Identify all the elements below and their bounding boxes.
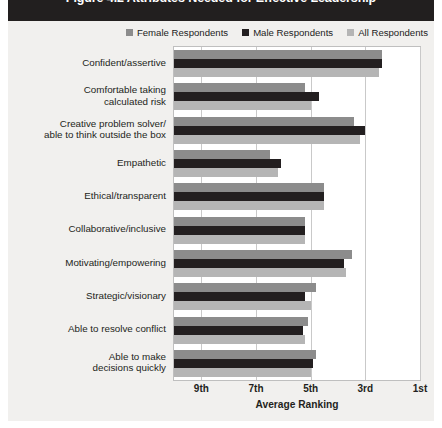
legend-item-label: Male Respondents — [253, 27, 333, 38]
category-label: Motivating/empowering — [8, 257, 166, 269]
gridline — [420, 47, 421, 380]
x-axis-ticks: 9th7th5th3rd1st — [173, 383, 421, 397]
category-label-line: Motivating/empowering — [8, 257, 166, 269]
x-axis-tick-label: 7th — [249, 383, 264, 394]
bar-group — [174, 183, 420, 210]
bar — [174, 135, 360, 144]
bar — [174, 326, 303, 335]
legend-swatch-icon — [242, 29, 249, 36]
bar — [174, 101, 311, 110]
bar-group — [174, 83, 420, 110]
bar — [174, 292, 305, 301]
category-label: Comfortable takingcalculated risk — [8, 84, 166, 107]
bar — [174, 268, 346, 277]
category-label-line: able to think outside the box — [8, 129, 166, 141]
bar-group — [174, 117, 420, 144]
bar — [174, 301, 311, 310]
bar — [174, 226, 305, 235]
bar-group — [174, 217, 420, 244]
bar — [174, 317, 308, 326]
category-label: Empathetic — [8, 157, 166, 169]
bar — [174, 126, 365, 135]
bar — [174, 83, 305, 92]
bar — [174, 168, 278, 177]
x-axis-tick-label: 3rd — [358, 383, 374, 394]
figure-title-band: Figure 4.2 Attributes Needed for Effecti… — [8, 0, 434, 21]
category-labels: Confident/assertiveComfortable takingcal… — [8, 46, 171, 381]
category-label-line: Creative problem solver/ — [8, 118, 166, 130]
x-axis-tick-label: 5th — [303, 383, 318, 394]
bar — [174, 150, 270, 159]
bar-group — [174, 283, 420, 310]
category-label: Able to resolve conflict — [8, 323, 166, 335]
bar — [174, 92, 319, 101]
legend-item-label: Female Respondents — [137, 27, 228, 38]
bar-group — [174, 350, 420, 377]
x-axis-tick-label: 9th — [194, 383, 209, 394]
x-axis-tick-label: 1st — [413, 383, 427, 394]
bar — [174, 183, 324, 192]
legend-item-label: All Respondents — [358, 27, 428, 38]
bar — [174, 159, 281, 168]
category-label-line: Able to make — [8, 351, 166, 363]
category-label-line: Confident/assertive — [8, 57, 166, 69]
category-label-line: Strategic/visionary — [8, 290, 166, 302]
bar — [174, 201, 324, 210]
category-label: Ethical/transparent — [8, 190, 166, 202]
bar — [174, 117, 354, 126]
category-label-line: Ethical/transparent — [8, 190, 166, 202]
figure-container: Figure 4.2 Attributes Needed for Effecti… — [0, 0, 442, 428]
category-label-line: Collaborative/inclusive — [8, 223, 166, 235]
bar — [174, 50, 382, 59]
category-label-line: Empathetic — [8, 157, 166, 169]
x-axis-title: Average Ranking — [173, 399, 421, 410]
bar — [174, 250, 352, 259]
bar — [174, 359, 313, 368]
bar — [174, 235, 305, 244]
bars-layer — [174, 47, 420, 380]
bar-group — [174, 150, 420, 177]
bar — [174, 368, 311, 377]
legend-item: All Respondents — [347, 27, 428, 38]
bar — [174, 350, 316, 359]
bar-group — [174, 317, 420, 344]
category-label-line: Comfortable taking — [8, 84, 166, 96]
bar — [174, 68, 379, 77]
legend-swatch-icon — [126, 29, 133, 36]
category-label: Able to makedecisions quickly — [8, 351, 166, 374]
chart-panel: Female RespondentsMale RespondentsAll Re… — [8, 21, 434, 421]
figure-title: Figure 4.2 Attributes Needed for Effecti… — [8, 0, 434, 5]
bar — [174, 335, 305, 344]
category-label: Confident/assertive — [8, 57, 166, 69]
category-label: Strategic/visionary — [8, 290, 166, 302]
chart-legend: Female RespondentsMale RespondentsAll Re… — [8, 27, 434, 38]
category-label-line: calculated risk — [8, 96, 166, 108]
bar — [174, 217, 305, 226]
category-label-line: decisions quickly — [8, 362, 166, 374]
bar — [174, 283, 316, 292]
legend-swatch-icon — [347, 29, 354, 36]
category-label: Creative problem solver/able to think ou… — [8, 118, 166, 141]
bar — [174, 59, 382, 68]
category-label: Collaborative/inclusive — [8, 223, 166, 235]
bar-group — [174, 50, 420, 77]
legend-item: Female Respondents — [126, 27, 228, 38]
plot-area — [173, 46, 421, 381]
bar — [174, 259, 344, 268]
bar — [174, 192, 324, 201]
legend-item: Male Respondents — [242, 27, 333, 38]
category-label-line: Able to resolve conflict — [8, 323, 166, 335]
bar-group — [174, 250, 420, 277]
